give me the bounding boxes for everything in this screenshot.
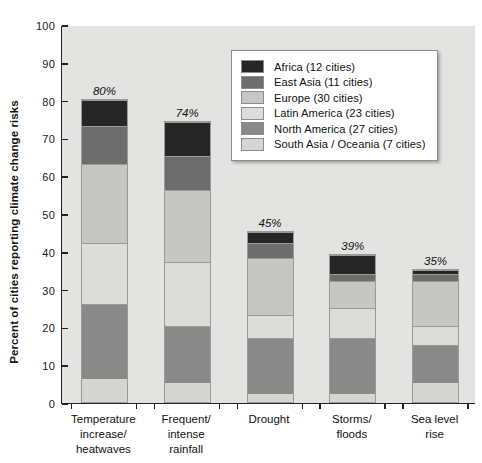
y-tick-mark bbox=[62, 139, 68, 141]
legend-swatch bbox=[241, 122, 264, 135]
bar-segment[interactable] bbox=[82, 243, 127, 303]
bar-total-label: 39% bbox=[341, 240, 364, 252]
bar-segment[interactable] bbox=[330, 255, 375, 274]
y-axis-tick-50: 50 bbox=[42, 209, 62, 221]
x-tick-mark bbox=[219, 403, 221, 409]
legend-swatch bbox=[241, 107, 264, 120]
bar-segment[interactable] bbox=[165, 190, 210, 262]
bar-stack[interactable]: 39% bbox=[329, 254, 376, 403]
bar-segment[interactable] bbox=[248, 232, 293, 243]
x-axis-label-line: rainfall bbox=[131, 442, 241, 457]
bar-segment[interactable] bbox=[413, 274, 458, 282]
bar-segment[interactable] bbox=[413, 345, 458, 383]
bar-total-label: 74% bbox=[176, 107, 199, 119]
bar-segment[interactable] bbox=[248, 394, 293, 402]
bar-segment[interactable] bbox=[82, 126, 127, 164]
legend-swatch bbox=[241, 76, 264, 89]
legend-item[interactable]: Europe (30 cities) bbox=[241, 90, 425, 106]
stacked-bar-chart: Percent of cities reporting climate chan… bbox=[0, 0, 482, 463]
y-tick-mark bbox=[62, 290, 68, 292]
y-axis-tick-10: 10 bbox=[42, 360, 62, 372]
bar-segment[interactable] bbox=[165, 262, 210, 326]
y-axis-tick-90: 90 bbox=[42, 58, 62, 70]
y-axis-tick-40: 40 bbox=[42, 247, 62, 259]
bar-stack[interactable]: 74% bbox=[164, 121, 211, 403]
y-tick-mark bbox=[62, 25, 68, 27]
bar-segment[interactable] bbox=[413, 281, 458, 326]
x-axis-label-line: Sea level bbox=[380, 412, 482, 427]
y-axis-tick-30: 30 bbox=[42, 285, 62, 297]
bar-segment[interactable] bbox=[330, 274, 375, 282]
x-tick-mark bbox=[136, 403, 138, 409]
x-tick-mark bbox=[384, 403, 386, 409]
y-tick-mark bbox=[62, 328, 68, 330]
bar-total-label: 45% bbox=[258, 217, 281, 229]
legend-item[interactable]: South Asia / Oceania (7 cities) bbox=[241, 137, 425, 153]
bar-total-label: 35% bbox=[424, 255, 447, 267]
x-tick-mark bbox=[154, 403, 156, 409]
x-tick-mark bbox=[467, 403, 469, 409]
y-axis-tick-0: 0 bbox=[49, 398, 62, 410]
bar-segment[interactable] bbox=[413, 326, 458, 345]
legend-swatch bbox=[241, 138, 264, 151]
legend-label: Latin America (23 cities) bbox=[274, 107, 395, 119]
bar-segment[interactable] bbox=[82, 379, 127, 402]
legend-label: South Asia / Oceania (7 cities) bbox=[274, 138, 425, 150]
bar-segment[interactable] bbox=[82, 100, 127, 126]
bar-segment[interactable] bbox=[165, 156, 210, 190]
legend-label: East Asia (11 cities) bbox=[274, 76, 372, 88]
legend-item[interactable]: Latin America (23 cities) bbox=[241, 106, 425, 122]
bar-segment[interactable] bbox=[165, 122, 210, 156]
y-axis-tick-70: 70 bbox=[42, 133, 62, 145]
bar-segment[interactable] bbox=[165, 326, 210, 383]
bar-segment[interactable] bbox=[330, 338, 375, 395]
bar-segment[interactable] bbox=[248, 258, 293, 315]
legend-item[interactable]: Africa (12 cities) bbox=[241, 59, 425, 75]
bar-segment[interactable] bbox=[330, 308, 375, 338]
x-axis-label-line: rise bbox=[380, 427, 482, 442]
legend-label: North America (27 cities) bbox=[274, 123, 398, 135]
y-tick-mark bbox=[62, 214, 68, 216]
legend-item[interactable]: North America (27 cities) bbox=[241, 121, 425, 137]
y-tick-mark bbox=[62, 403, 68, 405]
x-tick-mark bbox=[237, 403, 239, 409]
x-tick-mark bbox=[71, 403, 73, 409]
y-axis-tick-20: 20 bbox=[42, 322, 62, 334]
bar-segment[interactable] bbox=[82, 304, 127, 380]
y-tick-mark bbox=[62, 252, 68, 254]
bar-segment[interactable] bbox=[248, 338, 293, 395]
bar-stack[interactable]: 80% bbox=[81, 99, 128, 403]
bar-segment[interactable] bbox=[248, 243, 293, 258]
legend-swatch bbox=[241, 91, 264, 104]
bar-total-label: 80% bbox=[93, 85, 116, 97]
y-tick-mark bbox=[62, 63, 68, 65]
y-tick-mark bbox=[62, 101, 68, 103]
bar-segment[interactable] bbox=[330, 281, 375, 307]
x-tick-mark bbox=[402, 403, 404, 409]
bar-segment[interactable] bbox=[330, 394, 375, 402]
y-tick-mark bbox=[62, 365, 68, 367]
x-tick-mark bbox=[319, 403, 321, 409]
chart-legend: Africa (12 cities)East Asia (11 cities)E… bbox=[231, 50, 438, 161]
x-axis-label: Sea levelrise bbox=[380, 412, 482, 442]
bar-segment[interactable] bbox=[165, 383, 210, 402]
bar-segment[interactable] bbox=[248, 315, 293, 338]
y-axis-tick-100: 100 bbox=[36, 20, 62, 32]
legend-label: Africa (12 cities) bbox=[274, 61, 355, 73]
y-axis-tick-80: 80 bbox=[42, 96, 62, 108]
bar-segment[interactable] bbox=[413, 383, 458, 402]
y-tick-mark bbox=[62, 176, 68, 178]
bar-segment[interactable] bbox=[82, 164, 127, 243]
legend-item[interactable]: East Asia (11 cities) bbox=[241, 75, 425, 91]
y-axis-title: Percent of cities reporting climate chan… bbox=[8, 82, 20, 382]
x-axis-label-line: intense bbox=[131, 427, 241, 442]
legend-swatch bbox=[241, 60, 264, 73]
bar-stack[interactable]: 35% bbox=[412, 269, 459, 403]
x-tick-mark bbox=[302, 403, 304, 409]
bar-stack[interactable]: 45% bbox=[247, 231, 294, 403]
legend-label: Europe (30 cities) bbox=[274, 92, 363, 104]
y-axis-tick-60: 60 bbox=[42, 171, 62, 183]
